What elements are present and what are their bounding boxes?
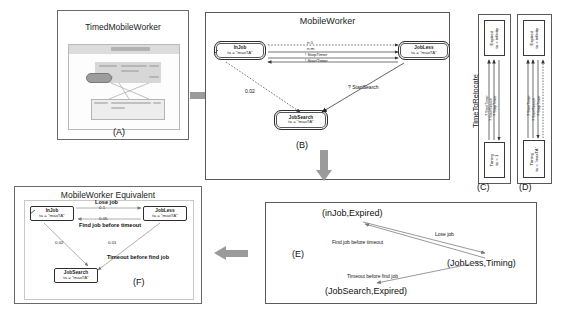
panel-c-title: TimeToRelocate (471, 74, 480, 128)
screenshot-line (153, 102, 161, 104)
node-expired-d[interactable]: Expired ta = infinity (523, 20, 545, 56)
node-expired-c-label: Expired ta = infinity (489, 28, 499, 49)
panel-e-caption: (E) (292, 249, 304, 259)
panel-a-screenshot (68, 44, 180, 130)
node-expired-d-label: Expired ta = infinity (529, 28, 539, 49)
screenshot-line (99, 65, 117, 67)
edge-label-prob-b: 0.02 (245, 88, 255, 94)
screenshot-line (111, 107, 125, 109)
screenshot-titlebar-text (111, 47, 151, 51)
edge-label-startsearch-b: ? StartSearch (348, 84, 379, 90)
edge-label-stoptimer-c: ? StopTimer (493, 95, 497, 116)
edge-label-p3-f: 0.02 (55, 240, 64, 245)
edge-label-p4-f: 0.01 (108, 240, 117, 245)
edge-label-starttimer-b: ! StartTimer (305, 58, 328, 63)
figure-canvas: TimedMobileWorker (A) MobileWorke (0, 0, 569, 316)
screenshot-line (149, 76, 159, 78)
screenshot-line (111, 102, 151, 104)
panel-b-caption: (B) (296, 140, 308, 150)
screenshot-line (149, 65, 159, 67)
edge-label-stoptimer-d: ? StopTimer (537, 95, 541, 116)
arrow-b-to-e (316, 150, 332, 182)
panel-a-title: TimedMobileWorker (57, 22, 189, 32)
node-expired-c[interactable]: Expired ta = infinity (484, 20, 505, 56)
edge-label-p2-f: 0.05 (99, 216, 108, 221)
node-jobsearch-f[interactable]: JobSearch ta = "maxTA" (54, 268, 98, 283)
node-timing-d-label: Timing ta = "maxTA" (529, 147, 539, 172)
edge-label-starttimer-d: ? StartTimer (527, 95, 531, 116)
edge-label-timeout-f: Timeout before find job (107, 254, 169, 260)
node-injob-f[interactable]: InJob ta = "maxTA" (30, 206, 74, 221)
screenshot-line (121, 70, 139, 72)
node-jobless-timing-e[interactable]: (JobLess,Timing) (447, 258, 516, 268)
screenshot-line (121, 65, 147, 67)
panel-d-caption: (D) (519, 182, 532, 192)
node-jobless-f[interactable]: JobLess ta = "maxTA" (143, 206, 187, 221)
node-injob-expired-e[interactable]: (inJob,Expired) (322, 208, 383, 218)
node-injob-b-ta: ta = "maxTA" (227, 51, 252, 56)
edge-label-timeout-e: Timeout before find job (347, 273, 398, 279)
edge-label-startsearch-d: ? StartSearch (532, 98, 536, 121)
node-jobless-b[interactable]: JobLess ta = "maxTA" (398, 41, 450, 60)
node-jobless-f-ta: ta = "maxTA" (152, 214, 177, 219)
node-injob-f-ta: ta = "maxTA" (39, 214, 64, 219)
node-jobsearch-f-ta: ta = "maxTA" (63, 276, 88, 281)
edge-label-find-job-f: Find job before timeout (79, 222, 141, 228)
panel-b-title: MobileWorker (205, 16, 450, 26)
panel-a-caption: (A) (113, 127, 125, 137)
edge-label-p1-f: 0.1 (99, 205, 105, 210)
edge-label-starttimer-c: ? StartTimer (485, 95, 489, 116)
panel-c-caption: (C) (477, 182, 490, 192)
node-jobsearch-b[interactable]: JobSearch ta = "maxTA" (274, 110, 328, 130)
panel-f-caption: (F) (133, 277, 145, 287)
node-timing-d[interactable]: Timing ta = "maxTA" (523, 140, 545, 178)
node-jobsearch-expired-e[interactable]: (JobSearch,Expired) (325, 286, 407, 296)
node-jobsearch-b-ta: ta = "maxTA" (288, 120, 313, 125)
node-timing-c[interactable]: Timing ta = 1 (484, 142, 505, 178)
edge-label-n1: n:1 (307, 40, 313, 45)
edge-label-find-job-e: Find job before timeout (332, 239, 383, 245)
arrow-e-to-f (214, 246, 248, 260)
edge-label-stoptimer-b: ! StopTimer (305, 52, 328, 57)
screenshot-selected-item (86, 73, 112, 83)
node-injob-b[interactable]: InJob ta = "maxTA" (214, 41, 266, 60)
screenshot-line (94, 102, 108, 104)
edge-label-lose-job-e: Lose job (435, 231, 454, 237)
node-jobless-b-ta: ta = "maxTA" (411, 51, 436, 56)
node-timing-c-label: Timing ta = 1 (489, 154, 499, 167)
edge-label-nm: n:m (307, 46, 314, 51)
edge-label-startsearch-c: ? StartSearch (489, 98, 493, 121)
